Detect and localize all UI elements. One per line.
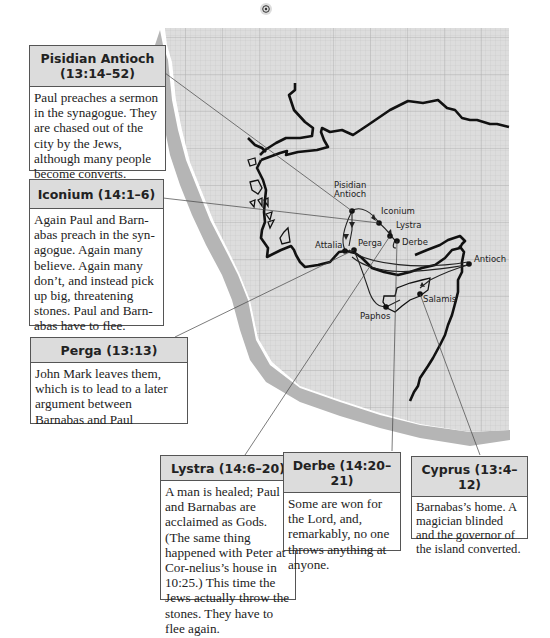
city-label-paphos: Paphos (360, 311, 391, 321)
city-label-attalia: Attalia (315, 240, 342, 250)
callout-body: Again Paul and Barn-abas preach in the s… (30, 209, 163, 336)
city-label-salamis: Salamis (423, 294, 457, 304)
city-label-derbe: Derbe (402, 237, 428, 247)
callout-pisidian-antioch: Pisidian Antioch (13:14–52) Paul preache… (29, 45, 166, 171)
callout-title: Pisidian Antioch (13:14–52) (30, 46, 165, 87)
callout-body: A man is healed; Paul and Barnabas are a… (161, 481, 295, 638)
callout-title: Derbe (14:20–21) (284, 453, 400, 493)
callout-title-line1: Pisidian Antioch (32, 51, 163, 66)
callout-title: Iconium (14:1–6) (30, 180, 163, 209)
callout-title: Perga (13:13) (31, 338, 187, 363)
callout-title: Lystra (14:6–20) (161, 456, 295, 481)
city-label-antioch: Antioch (474, 254, 506, 264)
callout-body: Paul preaches a sermon in the synagogue.… (30, 87, 165, 183)
callout-title-line2: (13:14–52) (32, 66, 163, 81)
callout-body: Barnabas’s home. A magician blinded and … (412, 497, 527, 558)
callout-body: John Mark leaves them, which is to lead … (31, 363, 187, 429)
callout-cyprus: Cyprus (13:4–12) Barnabas’s home. A magi… (411, 456, 528, 539)
callout-derbe: Derbe (14:20–21) Some are won for the Lo… (283, 452, 401, 551)
city-label-lystra: Lystra (396, 220, 421, 230)
callout-perga: Perga (13:13) John Mark leaves them, whi… (30, 337, 188, 424)
city-label-perga: Perga (358, 238, 382, 248)
callout-lystra: Lystra (14:6–20) A man is healed; Paul a… (160, 455, 296, 600)
callout-iconium: Iconium (14:1–6) Again Paul and Barn-aba… (29, 179, 164, 326)
callout-title: Cyprus (13:4–12) (412, 457, 527, 497)
callout-body: Some are won for the Lord, and, remarkab… (284, 493, 400, 574)
city-label-iconium: Iconium (381, 206, 415, 216)
city-label-pisidian-antioch-2: Antioch (334, 189, 366, 199)
